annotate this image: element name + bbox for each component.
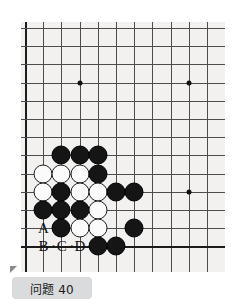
black-stone[interactable]	[107, 182, 126, 201]
caption-text: 问题 40	[30, 280, 73, 297]
point-marker-dot[interactable]: ·	[51, 239, 56, 254]
black-stone[interactable]	[52, 201, 71, 220]
white-stone[interactable]	[88, 201, 107, 220]
black-stone[interactable]	[125, 219, 144, 238]
go-problem-figure: AB·C·D 问题 40	[0, 0, 245, 308]
white-stone[interactable]	[70, 182, 89, 201]
point-label-b[interactable]: B	[38, 239, 48, 254]
go-board[interactable]: AB·C·D	[21, 22, 225, 272]
grid-line-horizontal	[21, 119, 225, 120]
grid-line-horizontal	[21, 137, 225, 138]
white-stone[interactable]	[34, 182, 53, 201]
grid-line-horizontal	[21, 46, 225, 47]
grid-line-horizontal	[21, 64, 225, 65]
corner-marker-icon	[10, 266, 17, 273]
point-label-c[interactable]: C	[57, 239, 67, 254]
white-stone[interactable]	[52, 164, 71, 183]
white-stone[interactable]	[70, 164, 89, 183]
star-point	[77, 80, 82, 85]
black-stone[interactable]	[52, 219, 71, 238]
black-stone[interactable]	[107, 237, 126, 256]
grid-line-vertical	[189, 22, 190, 272]
black-stone[interactable]	[125, 182, 144, 201]
black-stone[interactable]	[88, 164, 107, 183]
star-point	[186, 189, 191, 194]
white-stone[interactable]	[88, 219, 107, 238]
grid-line-vertical	[207, 22, 208, 272]
white-stone[interactable]	[70, 219, 89, 238]
grid-line-vertical	[152, 22, 153, 272]
go-board-grid	[21, 22, 225, 272]
white-stone[interactable]	[88, 182, 107, 201]
black-stone[interactable]	[88, 146, 107, 165]
grid-line-horizontal	[21, 28, 225, 29]
grid-line-vertical	[25, 22, 27, 272]
grid-line-vertical	[171, 22, 172, 272]
black-stone[interactable]	[52, 146, 71, 165]
star-point	[186, 80, 191, 85]
point-marker-dot[interactable]: ·	[69, 239, 74, 254]
white-stone[interactable]	[34, 164, 53, 183]
black-stone[interactable]	[70, 201, 89, 220]
point-label-a[interactable]: A	[38, 221, 48, 236]
point-label-d[interactable]: D	[74, 239, 84, 254]
black-stone[interactable]	[52, 182, 71, 201]
black-stone[interactable]	[34, 201, 53, 220]
grid-line-horizontal	[21, 83, 225, 84]
black-stone[interactable]	[70, 146, 89, 165]
grid-line-horizontal	[21, 101, 225, 102]
caption-badge: 问题 40	[12, 277, 92, 299]
black-stone[interactable]	[88, 237, 107, 256]
grid-line-vertical	[116, 22, 117, 272]
